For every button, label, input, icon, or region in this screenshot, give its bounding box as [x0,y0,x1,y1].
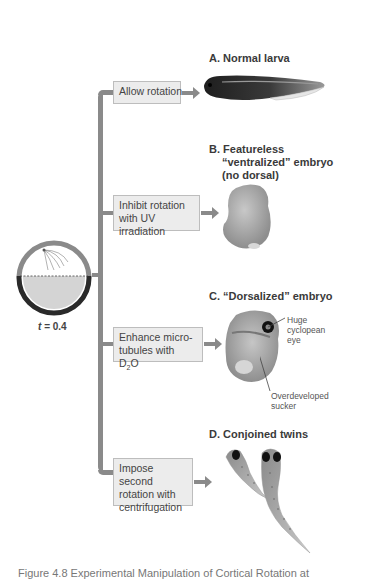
treatment-text: Impose second rotation with centrifugati… [119,462,182,513]
connector-branch-allow [98,90,114,95]
connector-branch-uv [100,211,114,215]
conjoined-twins-image [218,443,328,562]
treatment-text: Allow rotation [119,85,182,97]
arrow-centrifuge [194,480,206,484]
egg-time-label: t = 0.4 [38,321,67,332]
connector-branch-d2o [100,342,114,346]
connector-trunk [98,92,103,472]
title-line3: (no dorsal) [209,169,333,182]
figure-caption: Figure 4.8 Experimental Manipulation of … [18,567,309,579]
treatment-allow-rotation: Allow rotation [113,81,181,104]
arrow-uv [201,211,213,215]
time-value: = 0.4 [44,321,67,332]
title-line2: “ventralized” embryo [209,156,333,169]
normal-larva-image [200,68,330,112]
treatment-text: Inhibit rotation with UV irradiation [119,199,185,237]
ventralized-embryo-image [218,182,278,256]
treatment-text-line2-end: O [131,357,139,369]
outcome-a-title: A. Normal larva [209,52,290,65]
arrow-allow [182,91,194,95]
treatment-centrifugation: Impose second rotation with centrifugati… [113,458,193,506]
arrow-d2o [204,342,216,346]
egg-icon [14,238,94,318]
time-symbol: t [38,321,41,332]
egg-diagram [14,238,94,318]
treatment-enhance-d2o: Enhance micro- tubules with D2O [113,327,203,362]
treatment-text-line1: Enhance micro- [119,331,193,343]
title-line1: B. Featureless [209,143,333,156]
connector-branch-centrifuge [98,470,114,475]
outcome-b-title: B. Featureless “ventralized” embryo (no … [209,143,333,182]
outcome-d-title: D. Conjoined twins [209,428,308,441]
annotation-overdeveloped-sucker: Overdeveloped sucker [271,391,333,411]
treatment-inhibit-uv: Inhibit rotation with UV irradiation [113,195,200,231]
annotation-cyclopean-eye: Huge cyclopean eye [287,315,331,345]
outcome-c-title: C. “Dorsalized” embryo [209,290,332,303]
